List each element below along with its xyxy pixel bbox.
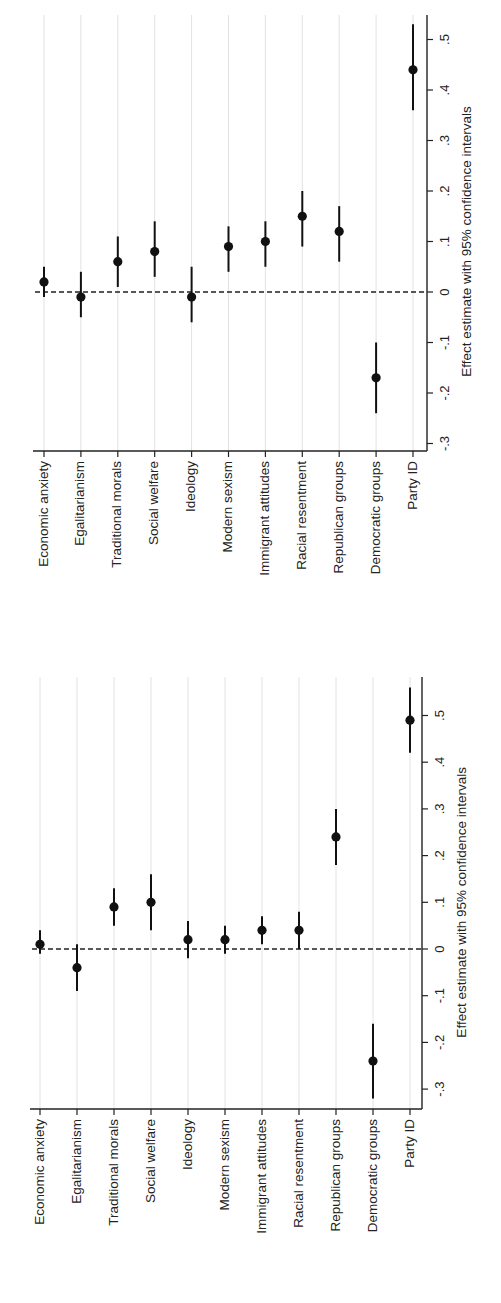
point-estimate-marker xyxy=(261,237,270,246)
point-estimate-marker xyxy=(224,242,233,251)
value-axis-tick-label: -.3 xyxy=(437,436,452,451)
value-axis-tick-label: .5 xyxy=(437,34,452,45)
point-estimate-marker xyxy=(35,940,44,949)
coefficient-chart-top: -.3-.2-.10.1.2.3.4.5Effect estimate with… xyxy=(33,15,474,576)
value-axis-tick-label: 0 xyxy=(432,945,447,952)
category-label: Democratic groups xyxy=(368,461,383,575)
value-axis-tick-label: 0 xyxy=(437,288,452,295)
category-label: Republican groups xyxy=(331,461,346,574)
category-label: Immigrant attitudes xyxy=(254,1119,269,1234)
point-estimate-marker xyxy=(183,935,192,944)
category-label: Ideology xyxy=(183,461,198,512)
point-estimate-marker xyxy=(109,902,118,911)
category-label: Modern sexism xyxy=(217,1119,232,1211)
value-axis-tick-label: .4 xyxy=(432,757,447,768)
value-axis-title: Effect estimate with 95% confidence inte… xyxy=(454,767,469,1038)
category-label: Ideology xyxy=(180,1119,195,1170)
category-label: Racial resentment xyxy=(294,461,309,570)
value-axis-tick-label: .4 xyxy=(437,85,452,96)
value-axis-tick-label: -.2 xyxy=(432,1035,447,1050)
category-label: Racial resentment xyxy=(291,1119,306,1228)
value-axis-title: Effect estimate with 95% confidence inte… xyxy=(459,106,474,377)
point-estimate-marker xyxy=(372,373,381,382)
point-estimate-marker xyxy=(298,212,307,221)
value-axis-tick-label: .3 xyxy=(432,803,447,814)
point-estimate-marker xyxy=(368,1056,377,1065)
value-axis-tick-label: -.1 xyxy=(432,988,447,1003)
category-label: Democratic groups xyxy=(365,1119,380,1233)
value-axis-tick-label: .2 xyxy=(437,186,452,197)
point-estimate-marker xyxy=(405,716,414,725)
point-estimate-marker xyxy=(76,292,85,301)
point-estimate-marker xyxy=(294,926,303,935)
category-label: Party ID xyxy=(402,1119,417,1168)
value-axis-tick-label: .5 xyxy=(432,710,447,721)
category-label: Party ID xyxy=(405,461,420,510)
value-axis-tick-label: -.3 xyxy=(432,1082,447,1097)
coefficient-chart-bottom: -.3-.2-.10.1.2.3.4.5Effect estimate with… xyxy=(30,677,469,1234)
value-axis-tick-label: .3 xyxy=(437,135,452,146)
point-estimate-marker xyxy=(146,898,155,907)
category-label: Economic anxiety xyxy=(36,461,51,567)
category-label: Social welfare xyxy=(143,1119,158,1203)
category-label: Traditional morals xyxy=(109,461,124,568)
category-label: Republican groups xyxy=(328,1119,343,1232)
point-estimate-marker xyxy=(335,227,344,236)
point-estimate-marker xyxy=(220,935,229,944)
point-estimate-marker xyxy=(113,257,122,266)
value-axis-tick-label: -.1 xyxy=(437,335,452,350)
point-estimate-marker xyxy=(72,963,81,972)
value-axis-tick-label: -.2 xyxy=(437,385,452,400)
category-label: Egalitarianism xyxy=(72,461,87,546)
point-estimate-marker xyxy=(150,247,159,256)
category-label: Economic anxiety xyxy=(32,1119,47,1225)
point-estimate-marker xyxy=(187,292,196,301)
category-label: Modern sexism xyxy=(220,461,235,553)
value-axis-tick-label: .2 xyxy=(432,850,447,861)
point-estimate-marker xyxy=(408,65,417,74)
category-label: Immigrant attitudes xyxy=(257,461,272,576)
value-axis-tick-label: .1 xyxy=(432,897,447,908)
point-estimate-marker xyxy=(257,926,266,935)
coefficient-plot-figure: -.3-.2-.10.1.2.3.4.5Effect estimate with… xyxy=(0,0,501,1303)
value-axis-tick-label: .1 xyxy=(437,236,452,247)
point-estimate-marker xyxy=(331,832,340,841)
category-label: Egalitarianism xyxy=(69,1119,84,1204)
point-estimate-marker xyxy=(39,277,48,286)
category-label: Traditional morals xyxy=(106,1119,121,1226)
category-label: Social welfare xyxy=(146,461,161,545)
